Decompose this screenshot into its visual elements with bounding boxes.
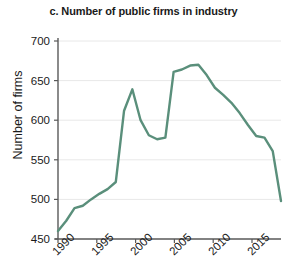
x-tick-2000: 2000 (128, 231, 155, 258)
x-tick-2015: 2015 (245, 231, 272, 258)
x-tick-2010: 2010 (206, 231, 233, 258)
x-tick-1995: 1995 (89, 231, 116, 258)
x-axis-tick-labels: 1990 1995 2000 2005 2010 2015 (0, 0, 287, 275)
x-tick-2005: 2005 (167, 231, 194, 258)
chart-container: c. Number of public firms in industry Nu… (0, 0, 287, 275)
x-tick-1990: 1990 (50, 231, 77, 258)
